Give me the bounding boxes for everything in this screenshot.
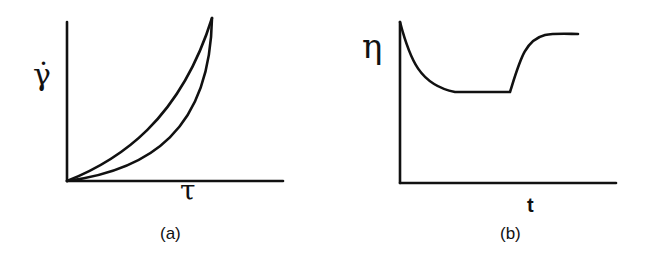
panel-b-x-label: t [527, 194, 534, 216]
figure-canvas: γ̇ τ (a) η t (b) [0, 0, 646, 259]
panel-b: η t (b) [362, 22, 616, 243]
panel-a-lower-curve [67, 18, 212, 181]
panel-a-caption: (a) [160, 224, 181, 243]
panel-b-caption: (b) [500, 224, 521, 243]
panel-a: γ̇ τ (a) [33, 18, 283, 243]
panel-b-y-label: η [362, 26, 382, 66]
panel-a-x-label: τ [180, 174, 196, 207]
panel-a-upper-curve [67, 18, 212, 181]
panel-a-y-label: γ̇ [33, 57, 51, 92]
panel-b-viscosity-curve [400, 22, 578, 92]
